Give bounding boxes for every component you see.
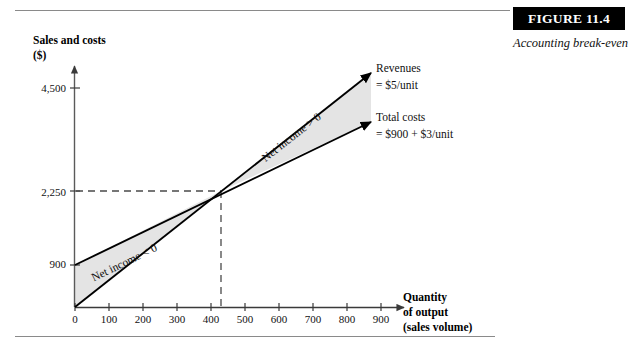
total-cost-line bbox=[75, 122, 371, 265]
figure-page: FIGURE 11.4 Accounting break-even Sales … bbox=[0, 0, 632, 356]
total-costs-annotation: Total costs = $900 + $3/unit bbox=[376, 109, 453, 142]
break-even-plot bbox=[0, 0, 632, 356]
revenue-line bbox=[75, 73, 371, 307]
revenues-annotation: Revenues = $5/unit bbox=[376, 60, 421, 93]
